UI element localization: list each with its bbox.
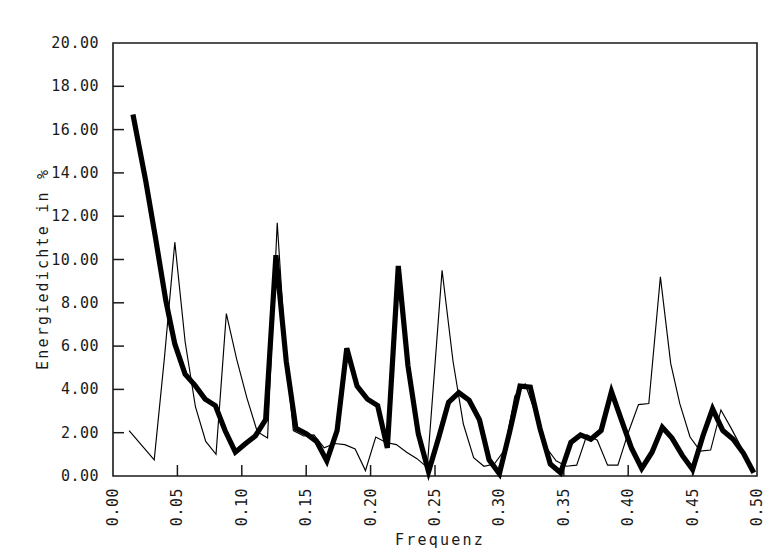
y-tick-label: 2.00 bbox=[61, 424, 99, 442]
power-spectrum-chart: 0.002.004.006.008.0010.0012.0014.0016.00… bbox=[0, 0, 780, 553]
y-tick-label: 14.00 bbox=[51, 164, 99, 182]
y-tick-label: 6.00 bbox=[61, 337, 99, 355]
plot-frame bbox=[113, 43, 757, 476]
x-tick-label: 0.45 bbox=[684, 488, 702, 526]
x-axis-ticks bbox=[177, 465, 692, 476]
y-axis-tick-labels: 0.002.004.006.008.0010.0012.0014.0016.00… bbox=[51, 34, 99, 485]
y-tick-label: 18.00 bbox=[51, 77, 99, 95]
y-tick-label: 12.00 bbox=[51, 207, 99, 225]
x-tick-label: 0.20 bbox=[362, 488, 380, 526]
x-tick-label: 0.00 bbox=[104, 488, 122, 526]
y-tick-label: 20.00 bbox=[51, 34, 99, 52]
y-tick-label: 8.00 bbox=[61, 294, 99, 312]
y-tick-label: 10.00 bbox=[51, 251, 99, 269]
x-axis-title: Frequenz bbox=[395, 531, 485, 549]
y-tick-label: 0.00 bbox=[61, 467, 99, 485]
y-tick-label: 4.00 bbox=[61, 380, 99, 398]
x-tick-label: 0.05 bbox=[168, 488, 186, 526]
x-tick-label: 0.25 bbox=[426, 488, 444, 526]
series-group bbox=[129, 114, 754, 473]
x-tick-label: 0.10 bbox=[233, 488, 251, 526]
chart-page: 0.002.004.006.008.0010.0012.0014.0016.00… bbox=[0, 0, 780, 553]
x-tick-label: 0.30 bbox=[490, 488, 508, 526]
x-tick-label: 0.15 bbox=[297, 488, 315, 526]
y-axis-ticks bbox=[113, 86, 124, 432]
x-tick-label: 0.40 bbox=[619, 488, 637, 526]
y-tick-label: 16.00 bbox=[51, 121, 99, 139]
axis-frame bbox=[113, 43, 757, 476]
thick-line-series bbox=[133, 114, 754, 473]
y-axis-title: Energiedichte in % bbox=[34, 168, 52, 370]
x-tick-label: 0.35 bbox=[555, 488, 573, 526]
x-axis-tick-labels: 0.000.050.100.150.200.250.300.350.400.45… bbox=[104, 488, 766, 526]
x-tick-label: 0.50 bbox=[748, 488, 766, 526]
